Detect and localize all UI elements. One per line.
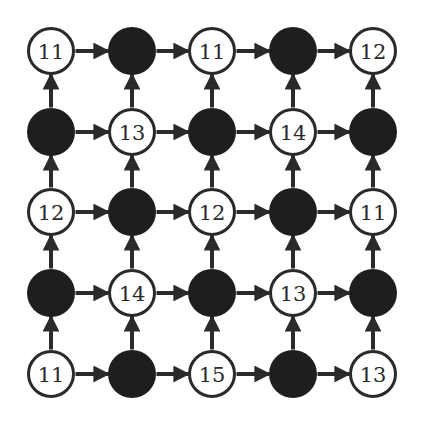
filled-circle-icon (27, 108, 75, 156)
node-label: 15 (199, 363, 226, 387)
filled-node (188, 108, 236, 156)
labeled-node: 11 (351, 190, 396, 235)
node-label: 13 (360, 363, 387, 387)
node-label: 13 (280, 282, 307, 306)
node-label: 12 (38, 201, 65, 225)
filled-circle-icon (27, 269, 75, 317)
filled-node (269, 350, 317, 398)
filled-node (108, 27, 156, 75)
filled-node (188, 269, 236, 317)
node-label: 14 (119, 282, 146, 306)
filled-node (108, 350, 156, 398)
filled-node (27, 269, 75, 317)
filled-circle-icon (188, 269, 236, 317)
node-label: 12 (199, 201, 226, 225)
labeled-node: 11 (29, 352, 74, 397)
filled-circle-icon (349, 269, 397, 317)
node-label: 11 (38, 363, 65, 387)
node-label: 13 (119, 121, 146, 145)
filled-node (27, 108, 75, 156)
grid-diagram: 11111213141212111413111513 (0, 0, 427, 426)
labeled-node: 13 (351, 352, 396, 397)
node-label: 11 (38, 40, 65, 64)
labeled-node: 11 (29, 29, 74, 74)
labeled-node: 15 (190, 352, 235, 397)
filled-circle-icon (349, 108, 397, 156)
filled-node (269, 188, 317, 236)
labeled-node: 12 (351, 29, 396, 74)
filled-node (269, 27, 317, 75)
labeled-node: 14 (271, 110, 316, 155)
filled-circle-icon (108, 188, 156, 236)
filled-node (108, 188, 156, 236)
filled-circle-icon (269, 27, 317, 75)
filled-circle-icon (108, 27, 156, 75)
filled-node (349, 269, 397, 317)
node-label: 11 (199, 40, 226, 64)
labeled-node: 12 (190, 190, 235, 235)
filled-circle-icon (188, 108, 236, 156)
node-label: 14 (280, 121, 307, 145)
labeled-node: 13 (110, 110, 155, 155)
filled-node (349, 108, 397, 156)
filled-circle-icon (269, 188, 317, 236)
labeled-node: 14 (110, 271, 155, 316)
node-label: 11 (360, 201, 387, 225)
filled-circle-icon (269, 350, 317, 398)
labeled-node: 11 (190, 29, 235, 74)
filled-circle-icon (108, 350, 156, 398)
node-label: 12 (360, 40, 387, 64)
labeled-node: 12 (29, 190, 74, 235)
labeled-node: 13 (271, 271, 316, 316)
